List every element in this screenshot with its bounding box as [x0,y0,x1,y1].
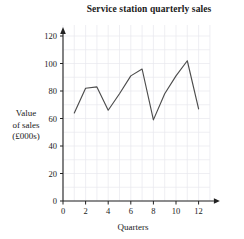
data-series-line [74,61,198,120]
x-axis-tick-label: 6 [129,206,133,216]
y-axis-arrow [60,27,66,34]
y-axis-tick-label: 60 [49,114,58,124]
x-axis-tick-label: 8 [151,206,155,216]
chart-container: Service station quarterly sales Value of… [0,0,244,239]
axis-tick-labels: 020406080100120024681012 [44,31,203,216]
plot-area: 020406080100120024681012 [0,0,244,239]
axis-ticks [60,36,199,205]
series-line [74,61,198,120]
gridlines [63,25,210,201]
y-axis-tick-label: 40 [49,141,58,151]
x-axis-tick-label: 12 [194,206,203,216]
y-axis-tick-label: 20 [49,169,58,179]
x-axis-tick-label: 2 [83,206,87,216]
x-axis-tick-label: 10 [172,206,181,216]
y-axis-tick-label: 120 [44,31,57,41]
axes [60,27,220,204]
x-axis-arrow [214,198,220,204]
x-axis-tick-label: 0 [61,206,65,216]
y-axis-tick-label: 80 [49,86,58,96]
x-axis-tick-label: 4 [106,206,111,216]
y-axis-tick-label: 0 [53,196,57,206]
y-axis-tick-label: 100 [44,59,57,69]
